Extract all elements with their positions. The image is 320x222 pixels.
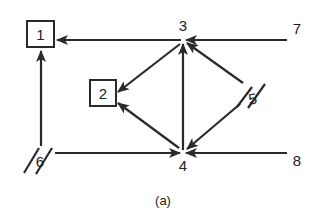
node-4-label: 4 bbox=[179, 157, 187, 174]
node-8-label: 8 bbox=[293, 152, 301, 169]
node-2-label: 2 bbox=[99, 85, 107, 102]
edge-3-to-2 bbox=[118, 44, 180, 92]
edge-4-to-2 bbox=[118, 103, 179, 148]
figure-caption: (a) bbox=[155, 193, 171, 208]
node-1: 1 bbox=[27, 21, 54, 47]
node-2: 2 bbox=[90, 80, 116, 106]
edge-5-to-3 bbox=[187, 43, 243, 83]
node-6-label: 6 bbox=[36, 153, 44, 170]
node-6: 6 bbox=[24, 148, 52, 174]
edge-5-to-4 bbox=[187, 104, 240, 149]
node-5: 5 bbox=[237, 84, 265, 108]
node-1-label: 1 bbox=[36, 26, 44, 43]
node-3-label: 3 bbox=[179, 17, 187, 34]
node-5-label: 5 bbox=[247, 89, 258, 107]
node-7-label: 7 bbox=[293, 20, 301, 37]
directed-graph: 1 2 3 4 5 6 7 8 (a) bbox=[0, 0, 320, 222]
